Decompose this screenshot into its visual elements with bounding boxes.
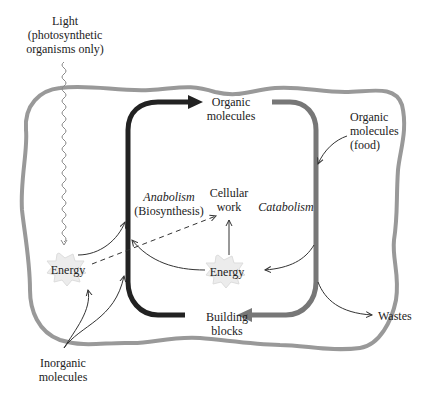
energy-center-label: Energy [199, 265, 255, 279]
energy-to-work-dashed-arrow [92, 216, 216, 264]
biosynthesis-text: (Biosynthesis) [130, 204, 208, 218]
metabolism-diagram: Light (photosynthetic organisms only) Or… [0, 0, 440, 394]
light-note-line1: (photosynthetic [10, 28, 120, 42]
inorganic-to-energy-arrow [64, 290, 89, 348]
anabolism-text: Anabolism [130, 190, 208, 204]
inorganic-molecules-label: Inorganic molecules [30, 356, 96, 384]
light-label: Light (photosynthetic organisms only) [10, 14, 120, 56]
light-arrowhead-icon [61, 240, 67, 245]
wastes-label: Wastes [378, 309, 412, 323]
inorganic-to-anabolism-arrow [64, 276, 124, 348]
organic-food-label: Organic molecules (food) [350, 110, 399, 152]
energy-left-to-anabolism-arrow [78, 222, 125, 255]
organic-food-line1: Organic [350, 110, 399, 124]
organic-food-line2: molecules [350, 124, 399, 138]
building-blocks-label: Building blocks [197, 310, 257, 338]
food-inflow-arrow [318, 136, 347, 164]
building-blocks-line2: blocks [197, 324, 257, 338]
cellular-work-line2: work [200, 200, 258, 214]
catabolism-label: Catabolism [256, 200, 316, 214]
cellular-work-label: Cellular work [200, 186, 258, 214]
inorganic-line2: molecules [30, 370, 96, 384]
cellular-work-line1: Cellular [200, 186, 258, 200]
wastes-outflow-arrow [318, 282, 372, 315]
light-text: Light [10, 14, 120, 28]
organic-food-line3: (food) [350, 138, 399, 152]
building-blocks-line1: Building [197, 310, 257, 324]
energy-left-label: Energy [40, 263, 96, 277]
organic-molecules-label: Organic molecules [198, 95, 264, 123]
catabolism-to-energy-arrow [265, 245, 314, 270]
anabolism-label: Anabolism (Biosynthesis) [130, 190, 208, 218]
organic-molecules-line1: Organic [198, 95, 264, 109]
inorganic-line1: Inorganic [30, 356, 96, 370]
light-note-line2: organisms only) [10, 42, 120, 56]
organic-molecules-line2: molecules [198, 109, 264, 123]
